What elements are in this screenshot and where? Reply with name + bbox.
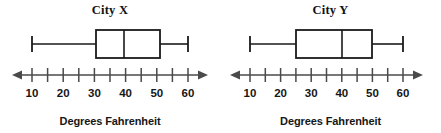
axis-label-city-y: Degrees Fahrenheit bbox=[220, 115, 441, 127]
axis-tick-labels-city-x: 10 20 30 40 50 60 bbox=[26, 87, 195, 99]
box-city-x bbox=[96, 30, 160, 58]
axis-arrow-right-city-y bbox=[413, 71, 423, 80]
axis-tick-labels-city-y: 10 20 30 40 50 60 bbox=[244, 87, 410, 99]
axis-city-x: 10 20 30 40 50 60 bbox=[12, 68, 208, 99]
tick-label-city-y-20: 20 bbox=[274, 87, 287, 99]
tick-label-city-x-30: 30 bbox=[88, 87, 101, 99]
tick-label-city-y-30: 30 bbox=[305, 87, 318, 99]
tick-label-city-x-60: 60 bbox=[182, 87, 195, 99]
panel-city-y: City Y bbox=[220, 0, 441, 133]
axis-city-y: 10 20 30 40 50 60 bbox=[230, 68, 423, 99]
tick-label-city-y-10: 10 bbox=[244, 87, 257, 99]
axis-arrow-right-city-x bbox=[198, 71, 208, 80]
boxplot-city-y bbox=[250, 30, 403, 58]
plot-city-y: 10 20 30 40 50 60 bbox=[220, 20, 441, 110]
tick-label-city-x-40: 40 bbox=[119, 87, 132, 99]
tick-label-city-x-10: 10 bbox=[26, 87, 39, 99]
boxplot-city-x bbox=[32, 30, 188, 58]
box-city-y bbox=[296, 30, 372, 58]
box-plot-figure: City X bbox=[0, 0, 441, 133]
axis-arrow-left-city-x bbox=[12, 71, 22, 80]
tick-label-city-x-50: 50 bbox=[150, 87, 163, 99]
panel-city-x: City X bbox=[0, 0, 220, 133]
plot-city-x: 10 20 30 40 50 60 bbox=[0, 20, 220, 110]
tick-label-city-y-40: 40 bbox=[335, 87, 348, 99]
panel-title-city-y: City Y bbox=[220, 3, 441, 18]
tick-label-city-x-20: 20 bbox=[57, 87, 70, 99]
tick-label-city-y-50: 50 bbox=[366, 87, 379, 99]
axis-arrow-left-city-y bbox=[230, 71, 240, 80]
panel-title-city-x: City X bbox=[0, 3, 220, 18]
tick-label-city-y-60: 60 bbox=[397, 87, 410, 99]
axis-label-city-x: Degrees Fahrenheit bbox=[0, 115, 220, 127]
